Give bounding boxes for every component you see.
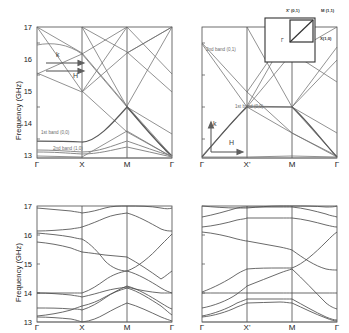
plot-canvas-top-right xyxy=(175,0,349,175)
panel-bottom-right: Γ X' M Γ xyxy=(175,175,349,333)
band-structure-figure: Frequency (GHz) 17 16 15 14 13 xyxy=(0,0,349,333)
panel-top-right: Γ X' (0,1) M (1,1) X(1,0) 2nd band (0,1)… xyxy=(175,0,349,175)
x-tick-Xprime-br: X' xyxy=(239,323,255,332)
annotation-H-top-right: H xyxy=(229,139,234,146)
annotation-k-top-right: k xyxy=(213,120,217,127)
x-tick-gamma-2-tr: Γ xyxy=(329,160,345,169)
panel-bottom-left: Frequency (GHz) 17 16 15 14 13 xyxy=(0,175,175,333)
x-tick-M-bl: M xyxy=(119,323,135,332)
annotation-band2-top-left: 2nd band (1,0) xyxy=(53,146,83,151)
inset-label-x: X(1,0) xyxy=(320,36,331,41)
annotation-H-top-left: H xyxy=(73,72,78,79)
x-tick-gamma-1-tl: Γ xyxy=(29,160,45,169)
inset-label-gamma: Γ xyxy=(281,37,284,43)
x-tick-M-tl: M xyxy=(119,160,135,169)
inset-label-m: M (1,1) xyxy=(321,8,334,13)
x-tick-X-tl: X xyxy=(74,160,90,169)
x-tick-M-tr: M xyxy=(284,160,300,169)
annotation-band1-top-left: 1st band (0,0) xyxy=(41,130,69,135)
annotation-band2-top-right: 2nd band (0,1) xyxy=(206,47,236,52)
inset-label-x-prime: X' (0,1) xyxy=(286,8,300,13)
x-tick-Xprime-tr: X' xyxy=(239,160,255,169)
x-tick-gamma-1-bl: Γ xyxy=(29,323,45,332)
plot-canvas-bottom-left xyxy=(0,175,175,333)
x-tick-gamma-1-tr: Γ xyxy=(194,160,210,169)
annotation-k-top-left: k xyxy=(56,51,60,58)
x-tick-gamma-1-br: Γ xyxy=(194,323,210,332)
plot-canvas-top-left xyxy=(0,0,175,175)
panel-top-left: Frequency (GHz) 17 16 15 14 13 xyxy=(0,0,175,175)
x-tick-X-bl: X xyxy=(74,323,90,332)
plot-canvas-bottom-right xyxy=(175,175,349,333)
annotation-band1-top-right: 1st band (0,0) xyxy=(235,104,263,109)
x-tick-gamma-2-br: Γ xyxy=(329,323,345,332)
x-tick-M-br: M xyxy=(284,323,300,332)
